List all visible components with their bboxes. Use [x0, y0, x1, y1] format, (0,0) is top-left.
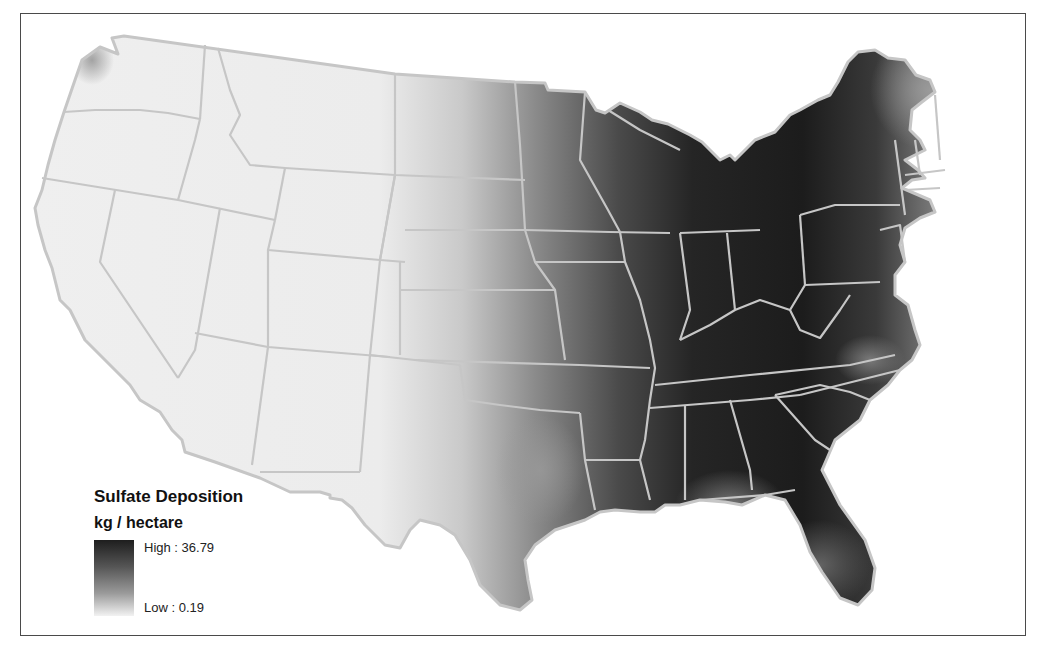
- legend-body: High : 36.79 Low : 0.19: [94, 540, 314, 616]
- legend-low-label: Low : 0.19: [144, 600, 204, 615]
- map-legend: Sulfate Deposition kg / hectare High : 3…: [94, 487, 314, 616]
- color-ramp: [94, 540, 134, 616]
- legend-high-label: High : 36.79: [144, 540, 214, 555]
- legend-units: kg / hectare: [94, 513, 314, 533]
- legend-title: Sulfate Deposition: [94, 487, 314, 507]
